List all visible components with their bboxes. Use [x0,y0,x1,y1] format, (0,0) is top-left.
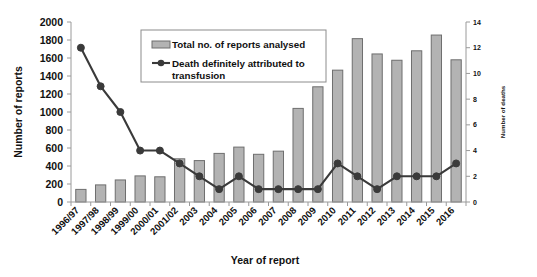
right-tick-label: 6 [473,121,477,128]
line-marker-2004 [216,186,223,193]
bar-2003 [194,161,204,202]
line-marker-1998-99 [117,109,124,116]
line-marker-2015 [433,173,440,180]
left-tick-label: 600 [45,142,63,154]
right-tick-label: 4 [473,147,477,154]
left-tick-label: 1800 [40,34,64,46]
bar-1998-99 [115,180,125,202]
line-marker-1996-97 [77,44,84,51]
line-marker-2005 [235,173,242,180]
right-tick-label: 0 [473,199,477,206]
bar-1996-97 [76,189,86,202]
legend-marker-icon [158,60,165,67]
legend-box [141,30,326,82]
line-marker-1999-00 [137,147,144,154]
right-tick-label: 12 [473,44,481,51]
line-marker-2016 [453,160,460,167]
right-tick-label: 2 [473,173,477,180]
left-axis-title: Number of reports [12,66,24,158]
bar-1999-00 [135,176,145,202]
line-marker-2012 [374,186,381,193]
right-tick-label: 10 [473,70,481,77]
left-tick-label: 400 [45,160,63,172]
line-marker-2000-01 [156,147,163,154]
chart-legend: Total no. of reports analysedDeath defin… [141,30,326,82]
line-marker-2006 [255,186,262,193]
legend-label-deaths-line2: transfusion [172,70,225,81]
bar-2013 [392,60,402,202]
legend-label-deaths: Death definitely attributed to [172,58,305,69]
line-marker-2007 [275,186,282,193]
left-tick-label: 800 [45,124,63,136]
line-marker-2011 [354,173,361,180]
line-marker-2010 [334,160,341,167]
bar-2007 [273,151,283,202]
bar-1997-98 [95,185,105,202]
line-marker-1997-98 [97,83,104,90]
chart-container: 0200400600800100012001400160018002000 02… [0,0,537,277]
line-marker-2014 [413,173,420,180]
left-tick-label: 1000 [40,106,64,118]
left-tick-label: 1400 [40,70,64,82]
bar-2016 [451,60,461,202]
legend-bar-swatch [152,41,170,48]
line-marker-2003 [196,173,203,180]
right-tick-label: 8 [473,96,477,103]
bar-2006 [253,154,263,202]
bar-2012 [372,54,382,202]
x-axis-ticks [71,202,466,206]
right-axis-title: Number of deaths [499,85,506,138]
bar-2000-01 [155,177,165,202]
line-marker-2013 [393,173,400,180]
bar-2004 [214,153,224,202]
line-marker-2001-02 [176,160,183,167]
line-marker-2008 [295,186,302,193]
line-marker-2009 [314,186,321,193]
right-tick-label: 14 [473,19,481,26]
bar-2010 [332,70,342,202]
legend-label-reports: Total no. of reports analysed [172,39,305,50]
left-tick-label: 0 [57,196,63,208]
left-tick-label: 1200 [40,88,64,100]
left-tick-label: 200 [45,178,63,190]
bar-line-combo-chart: 0200400600800100012001400160018002000 02… [0,0,537,277]
left-tick-label: 2000 [40,16,64,28]
left-tick-label: 1600 [40,52,64,64]
x-axis-title: Year of report [231,254,300,266]
